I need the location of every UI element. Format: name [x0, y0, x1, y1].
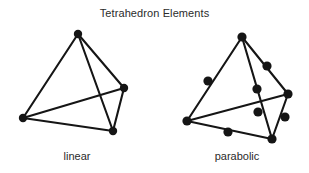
element-node-midside [280, 112, 289, 121]
element-node-corner [283, 89, 292, 98]
tetrahedron-elements-figure: Tetrahedron Elements linear parabolic [0, 0, 309, 173]
element-edge [23, 88, 124, 118]
element-edge [78, 34, 124, 88]
element-node-midside [253, 107, 262, 116]
element-node-midside [252, 84, 261, 93]
caption-parabolic: parabolic [182, 150, 292, 162]
element-edge [78, 34, 113, 131]
element-node-corner [74, 30, 82, 38]
element-node-corner [120, 84, 128, 92]
element-edge [113, 88, 124, 131]
element-node-corner [267, 134, 276, 143]
element-edge [23, 118, 113, 131]
element-node-corner [237, 32, 246, 41]
caption-linear: linear [22, 150, 132, 162]
element-edge [23, 34, 78, 118]
edges-layer [23, 34, 288, 139]
element-node-corner [182, 116, 191, 125]
element-node-midside [203, 76, 212, 85]
element-node-corner [19, 114, 27, 122]
tetrahedron-diagram-canvas [0, 0, 309, 173]
element-node-midside [262, 61, 271, 70]
element-node-midside [223, 127, 232, 136]
nodes-layer [19, 30, 293, 144]
element-node-corner [109, 127, 117, 135]
